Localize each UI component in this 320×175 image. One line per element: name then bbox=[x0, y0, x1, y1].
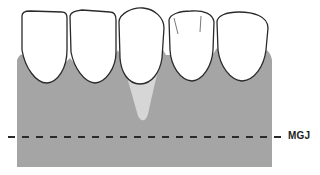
mgj-label: MGJ bbox=[288, 130, 310, 141]
tooth-4 bbox=[169, 11, 214, 81]
teeth bbox=[22, 8, 268, 84]
tooth-3 bbox=[119, 8, 164, 84]
dental-diagram bbox=[0, 0, 320, 175]
